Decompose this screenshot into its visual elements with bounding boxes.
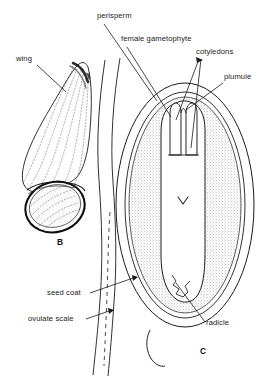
label-radicle: radicle <box>206 319 229 327</box>
label-wing: wing <box>16 55 32 63</box>
panel-b-winged-seed <box>19 60 96 239</box>
figure-letter-c: C <box>200 346 206 356</box>
label-seed-coat: seed coat <box>47 289 81 297</box>
embryo-cavity <box>161 101 205 302</box>
wing-outline <box>22 63 91 193</box>
label-female-gametophyte: female gametophyte <box>121 35 192 43</box>
leader-line-seed-coat <box>90 277 136 293</box>
label-plumule: plumule <box>224 73 251 81</box>
micropylar-tail <box>147 330 165 366</box>
panel-c-seed-section <box>116 83 254 366</box>
ovulate-scale-edge-left <box>93 60 105 375</box>
label-ovulate-scale: ovulate scale <box>28 315 74 323</box>
leader-line-wing <box>37 65 66 92</box>
label-perisperm: perisperm <box>97 12 132 20</box>
botanical-figure <box>0 0 270 383</box>
figure-letter-b: B <box>57 237 63 247</box>
ovulate-scale-midline-dashed <box>104 212 110 366</box>
arrowhead-cotyledons <box>196 57 203 63</box>
label-cotyledons: cotyledons <box>196 48 233 56</box>
